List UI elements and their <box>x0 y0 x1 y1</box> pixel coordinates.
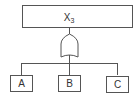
event-label-b: B <box>66 78 73 89</box>
top-event-box <box>23 6 133 28</box>
fault-tree-diagram: X3 A B C <box>0 0 139 99</box>
or-gate-icon <box>61 34 78 57</box>
basic-event-a: A <box>11 76 33 92</box>
event-label-a: A <box>18 78 25 89</box>
event-label-c: C <box>114 79 121 90</box>
basic-event-b: B <box>59 76 81 92</box>
basic-event-c: C <box>107 77 129 93</box>
top-event: X3 <box>23 6 133 28</box>
